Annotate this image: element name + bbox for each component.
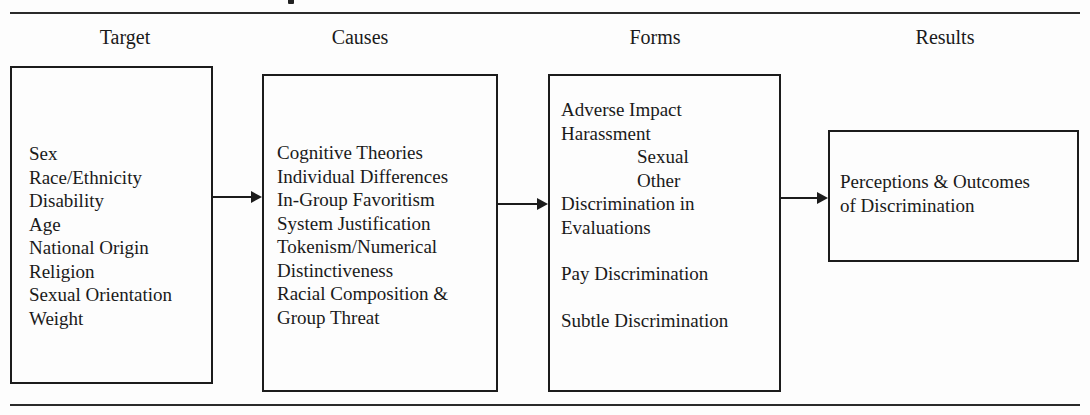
causes-item: Distinctiveness [277, 259, 496, 283]
target-item: Religion [29, 260, 211, 284]
forms-item: Harassment [561, 122, 779, 146]
target-item: Disability [29, 189, 211, 213]
target-item: National Origin [29, 236, 211, 260]
forms-item: Subtle Discrimination [561, 309, 779, 333]
causes-item: Group Threat [277, 306, 496, 330]
arrow-target-to-causes [213, 196, 260, 198]
causes-item: Cognitive Theories [277, 141, 496, 165]
top-rule [10, 12, 1080, 14]
target-item: Age [29, 213, 211, 237]
header-results: Results [875, 26, 1015, 49]
header-target: Target [55, 26, 195, 49]
results-item: Perceptions & Outcomes [840, 170, 1077, 194]
target-box: Sex Race/Ethnicity Disability Age Nation… [10, 66, 213, 384]
causes-item: System Justification [277, 212, 496, 236]
results-box: Perceptions & Outcomes of Discrimination [828, 130, 1079, 262]
forms-item: Discrimination in [561, 192, 779, 216]
causes-item: Tokenism/Numerical [277, 235, 496, 259]
header-forms: Forms [585, 26, 725, 49]
forms-item: Evaluations [561, 216, 779, 240]
target-item: Sexual Orientation [29, 283, 211, 307]
forms-item: Adverse Impact [561, 98, 779, 122]
causes-box: Cognitive Theories Individual Difference… [262, 74, 498, 392]
arrow-forms-to-results [781, 197, 826, 199]
forms-subitem: Sexual [561, 145, 779, 169]
forms-item: Pay Discrimination [561, 262, 779, 286]
cropped-title-fragment [284, 0, 298, 6]
forms-subitem: Other [561, 169, 779, 193]
forms-box: Adverse Impact Harassment Sexual Other D… [548, 74, 781, 392]
target-item: Race/Ethnicity [29, 166, 211, 190]
bottom-rule [10, 404, 1080, 406]
causes-item: Racial Composition & [277, 282, 496, 306]
target-item: Weight [29, 307, 211, 331]
causes-item: In-Group Favoritism [277, 188, 496, 212]
results-item: of Discrimination [840, 194, 1077, 218]
target-item: Sex [29, 142, 211, 166]
causes-item: Individual Differences [277, 165, 496, 189]
header-causes: Causes [290, 26, 430, 49]
arrow-causes-to-forms [498, 203, 546, 205]
